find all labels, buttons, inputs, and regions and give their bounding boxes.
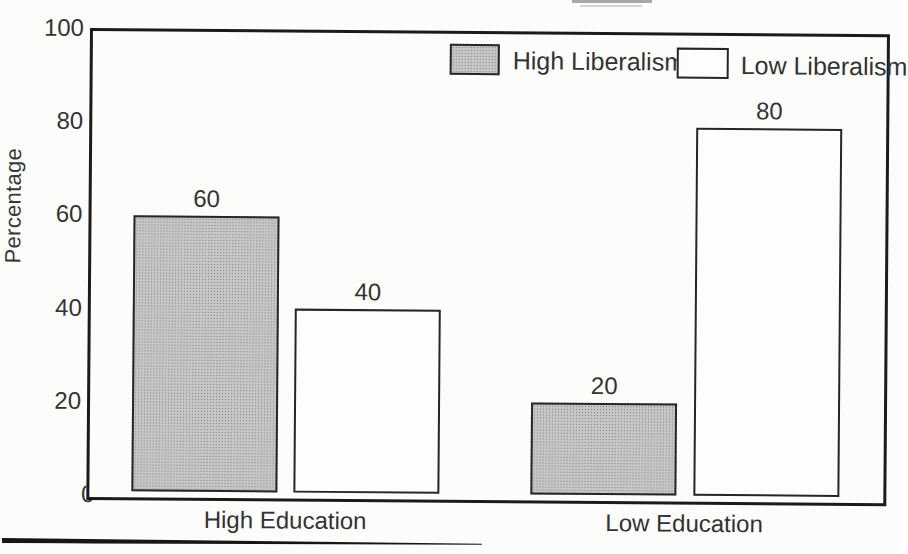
plot-inner: High Liberalism Low Liberalism 60 40 20 … xyxy=(89,31,881,497)
legend-label-high-liberalism: High Liberalism xyxy=(513,46,686,76)
bar-low-liberalism-high-education: 40 xyxy=(293,309,440,494)
bar-low-liberalism-low-education: 80 xyxy=(693,128,842,497)
bar-value-label: 40 xyxy=(297,278,439,307)
plot-area: High Liberalism Low Liberalism 60 40 20 … xyxy=(86,28,890,506)
y-tick-label-40: 40 xyxy=(36,295,82,321)
y-axis-title: Percentage xyxy=(0,143,27,263)
y-tick-label-100: 100 xyxy=(38,15,84,41)
x-category-label-high-education: High Education xyxy=(135,505,435,535)
page-rule xyxy=(2,537,482,547)
legend-swatch-low-liberalism xyxy=(677,48,729,79)
x-category-label-low-education: Low Education xyxy=(534,509,834,539)
bar-high-liberalism-high-education: 60 xyxy=(131,215,279,492)
bar-value-label: 60 xyxy=(136,184,278,213)
scan-artifact-line xyxy=(572,0,652,3)
y-tick-label-80: 80 xyxy=(37,108,83,134)
legend-swatch-high-liberalism xyxy=(450,44,500,75)
y-tick-label-20: 20 xyxy=(35,388,81,414)
bar-value-label: 80 xyxy=(698,97,840,126)
y-tick-label-60: 60 xyxy=(36,201,82,227)
bar-value-label: 20 xyxy=(533,371,675,400)
legend-label-low-liberalism: Low Liberalism xyxy=(741,51,908,81)
bar-high-liberalism-low-education: 20 xyxy=(530,402,677,495)
